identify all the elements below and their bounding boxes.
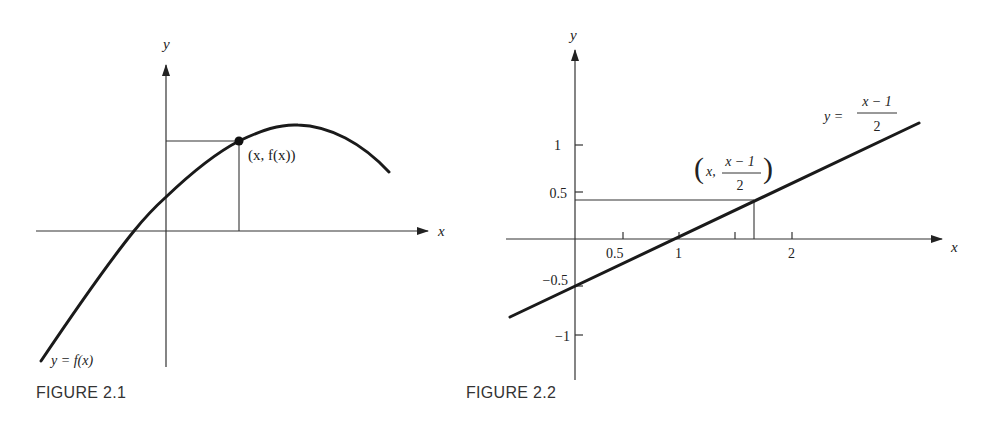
x-axis-label: x: [437, 223, 445, 239]
svg-text:y =: y =: [822, 109, 843, 124]
figure-caption: FIGURE 2.2: [466, 384, 556, 401]
x-axis-label: x: [950, 239, 958, 255]
svg-text:(: (: [694, 151, 704, 185]
y-tick-label: −1: [555, 329, 570, 344]
svg-text:x,: x,: [705, 164, 716, 179]
svg-text:x − 1: x − 1: [861, 94, 892, 109]
function-curve: [41, 125, 389, 361]
point-label: (x, f(x)): [248, 147, 295, 164]
y-axis-label: y: [161, 36, 170, 52]
x-tick-label: 0.5: [606, 246, 624, 261]
x-tick-label: 2: [788, 246, 795, 261]
point-label: ( x, x − 1 2 ): [694, 151, 773, 193]
figure-2-2: x y 0.5 1 2 1 0.5 −0.5 −1 ( x, x − 1 2 ): [466, 27, 958, 401]
x-tick-label: 1: [675, 246, 682, 261]
svg-text:2: 2: [874, 119, 881, 134]
figure-2-1: x y (x, f(x)) y = f(x) FIGURE 2.1: [36, 36, 445, 401]
svg-text:2: 2: [737, 178, 744, 193]
line-label: y = x − 1 2: [822, 94, 897, 134]
y-tick-label: 1: [554, 138, 561, 153]
y-tick-label: 0.5: [550, 186, 568, 201]
curve-label: y = f(x): [49, 353, 93, 369]
figure-caption: FIGURE 2.1: [36, 384, 126, 401]
svg-text:x − 1: x − 1: [724, 154, 755, 169]
y-tick-label: −0.5: [543, 273, 568, 288]
linear-function-line: [510, 123, 919, 317]
svg-text:): ): [763, 151, 773, 185]
point-marker: [235, 137, 244, 146]
y-axis-label: y: [568, 27, 577, 43]
